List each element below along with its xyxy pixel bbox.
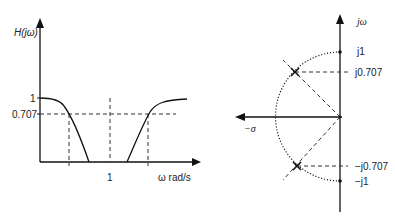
s-plane-plot: jω −σ j1 j0.707 −j0.707 −j1 — [235, 14, 389, 212]
y-tick-label-1: 1 — [30, 93, 36, 104]
y-tick-label-0707: 0.707 — [12, 109, 37, 120]
sigma-axis-arrow-icon — [235, 113, 245, 121]
sigma-axis-label: −σ — [244, 123, 257, 134]
jw-axis-label: jω — [355, 16, 367, 27]
point-neg-j1 — [338, 179, 342, 183]
label-j0707: j0.707 — [354, 67, 383, 78]
y-axis-label: H(jω) — [14, 27, 38, 38]
point-origin — [339, 116, 341, 118]
x-tick-label-1: 1 — [107, 172, 113, 183]
highpass-curve — [127, 99, 187, 162]
label-j1: j1 — [356, 46, 365, 57]
x-axis-label: ω rad/s — [158, 172, 191, 183]
lowpass-curve — [40, 98, 89, 162]
magnitude-response-plot: H(jω) 1 0.707 1 ω rad/s — [12, 18, 201, 183]
x-axis-arrow-icon — [192, 158, 201, 166]
jw-axis-arrow-icon — [336, 14, 344, 24]
diagram-canvas: H(jω) 1 0.707 1 ω rad/s — [0, 0, 395, 219]
label-neg-j1: −j1 — [355, 176, 369, 187]
label-neg-j0707: −j0.707 — [355, 161, 389, 172]
radial-line-lower — [283, 117, 340, 180]
point-j1 — [338, 50, 342, 54]
